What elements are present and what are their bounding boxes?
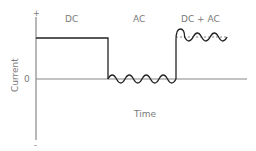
dc-ac-signal: [176, 29, 227, 41]
minus-label: -: [34, 141, 37, 150]
dc-signal: [36, 38, 108, 79]
dc-ac-label: DC + AC: [181, 14, 220, 24]
ac-label: AC: [133, 14, 145, 24]
y-axis-label: Current: [10, 58, 20, 92]
dc-label: DC: [65, 14, 78, 24]
zero-label: 0: [24, 74, 30, 84]
x-axis-label: Time: [133, 109, 156, 119]
current-diagram: + - 0 Current Time DC AC DC + AC: [0, 0, 256, 151]
plus-label: +: [33, 9, 40, 18]
